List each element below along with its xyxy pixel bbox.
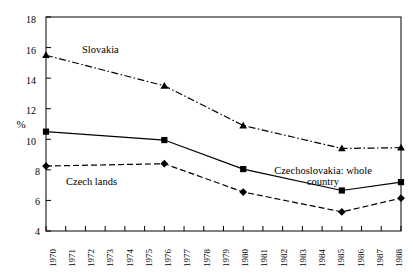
x-tick-label-1970: 1970: [49, 249, 58, 267]
y-tick-label-18: 18: [18, 15, 36, 25]
chart-plot-area: [0, 0, 413, 274]
x-tick-label-1979: 1979: [222, 249, 231, 267]
x-tick-label-1971: 1971: [68, 249, 77, 267]
x-tick-label-1986: 1986: [357, 249, 366, 267]
x-tick-label-1984: 1984: [318, 249, 327, 267]
y-tick-label-10: 10: [18, 137, 36, 147]
y-tick-label-6: 6: [22, 197, 40, 207]
series-label-czechoslovakia-whole-country-line2: country: [258, 176, 388, 188]
series-label-czech-lands: Czech lands: [66, 176, 117, 188]
x-tick-label-1974: 1974: [126, 249, 135, 267]
y-axis-label: %: [10, 118, 32, 130]
x-tick-label-1976: 1976: [164, 249, 173, 267]
x-tick-label-1977: 1977: [183, 249, 192, 267]
series-label-czechoslovakia-whole-country: Czechoslovakia: whole: [258, 165, 388, 177]
x-tick-label-1987: 1987: [376, 249, 385, 267]
x-tick-label-1975: 1975: [145, 249, 154, 267]
x-tick-label-1972: 1972: [87, 249, 96, 267]
series-1: [42, 51, 405, 151]
chart-figure: % 4 6 8 10 12 14 16 18 1970 1971 1972 19…: [0, 0, 413, 274]
y-tick-label-8: 8: [22, 167, 40, 177]
x-tick-label-1988: 1988: [395, 249, 404, 267]
x-tick-label-1981: 1981: [260, 249, 269, 267]
x-tick-label-1982: 1982: [280, 249, 289, 267]
y-tick-label-16: 16: [18, 46, 36, 56]
x-tick-label-1980: 1980: [241, 249, 250, 267]
y-tick-label-14: 14: [18, 76, 36, 86]
x-tick-label-1973: 1973: [106, 249, 115, 267]
y-tick-label-4: 4: [22, 227, 40, 237]
series-label-slovakia: Slovakia: [82, 44, 119, 56]
x-tick-label-1983: 1983: [299, 249, 308, 267]
x-tick-label-1978: 1978: [203, 249, 212, 267]
y-tick-label-12: 12: [18, 106, 36, 116]
x-tick-label-1985: 1985: [337, 249, 346, 267]
